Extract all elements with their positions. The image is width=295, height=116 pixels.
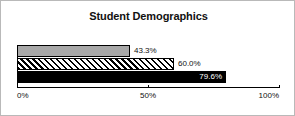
x-axis-tick-label-50: 50% — [140, 91, 156, 101]
bar-value-label-1: 43.3% — [134, 46, 157, 56]
chart-title: Student Demographics — [1, 10, 295, 22]
bar-series-1 — [17, 45, 130, 57]
x-axis-tick-100 — [279, 85, 280, 88]
bar-series-3 — [17, 71, 226, 83]
y-axis-line — [17, 45, 18, 88]
bar-series-2 — [17, 58, 174, 70]
plot-area: 43.3% 60.0% 79.6% — [17, 45, 279, 85]
x-axis-tick-50 — [148, 85, 149, 88]
bar-value-label-3: 79.6% — [199, 72, 222, 82]
bar-value-label-2: 60.0% — [178, 59, 201, 69]
x-axis-tick-0 — [17, 85, 18, 88]
x-axis-tick-label-0: 0% — [17, 91, 29, 101]
chart-container: Student Demographics 43.3% 60.0% 79.6% 0… — [0, 0, 295, 116]
x-axis-tick-label-100: 100% — [259, 91, 279, 101]
